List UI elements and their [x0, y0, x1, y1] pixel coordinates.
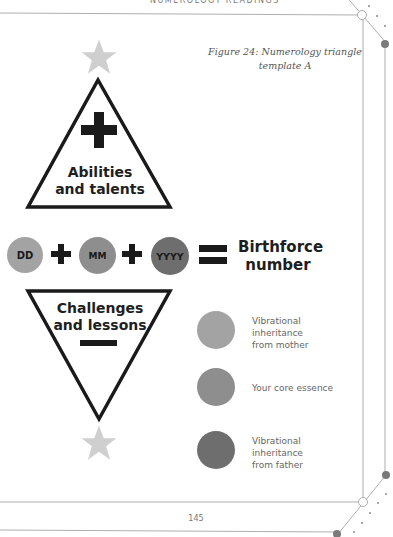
yyyy-label: YYYY	[156, 251, 184, 262]
equals-icon	[199, 245, 227, 265]
legend-mother-line-2: inheritance	[252, 327, 352, 339]
legend-core-text: Your core essence	[252, 382, 362, 394]
legend-core-swatch	[197, 368, 235, 406]
legend-father-text: Vibrational inheritance from father	[252, 435, 352, 471]
legend-mother-text: Vibrational inheritance from mother	[252, 315, 352, 351]
caption-line-2: template A	[205, 59, 365, 73]
birthforce-line-1: Birthforce	[238, 238, 318, 256]
running-header: NUMEROLOGY READINGS	[150, 0, 380, 5]
star-icon	[80, 424, 118, 462]
dd-label: DD	[17, 250, 34, 261]
legend-mother-swatch	[197, 311, 235, 349]
legend-father-line-3: from father	[252, 459, 352, 471]
legend-mother-line-3: from mother	[252, 339, 352, 351]
challenges-label: Challenges and lessons	[50, 300, 150, 334]
legend-mother-line-1: Vibrational	[252, 315, 352, 327]
legend-core-line-1: Your core essence	[252, 382, 362, 394]
caption-line-1: Figure 24: Numerology triangle	[205, 45, 365, 59]
birthforce-line-2: number	[238, 256, 318, 274]
minus-icon	[80, 340, 117, 346]
mm-label: MM	[89, 251, 107, 261]
figure-caption: Figure 24: Numerology triangle template …	[205, 45, 365, 73]
abilities-line-1: Abilities	[50, 164, 150, 181]
star-icon	[80, 38, 118, 76]
abilities-line-2: and talents	[50, 181, 150, 198]
abilities-label: Abilities and talents	[50, 164, 150, 198]
legend-father-swatch	[197, 431, 235, 469]
birthforce-label: Birthforce number	[238, 238, 318, 274]
yyyy-circle: YYYY	[151, 237, 189, 275]
challenges-line-2: and lessons	[50, 317, 150, 334]
plus-icon	[81, 112, 117, 148]
plus-icon	[51, 244, 71, 264]
legend-father-line-1: Vibrational	[252, 435, 352, 447]
legend-father-line-2: inheritance	[252, 447, 352, 459]
challenges-line-1: Challenges	[50, 300, 150, 317]
dd-circle: DD	[7, 237, 43, 273]
plus-icon	[122, 244, 142, 264]
page-number: 145	[176, 514, 216, 523]
mm-circle: MM	[79, 237, 116, 274]
